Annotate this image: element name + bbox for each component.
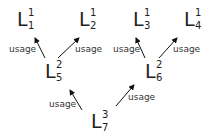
node-subscript: 7: [102, 123, 108, 133]
node-L41: L 1 4: [184, 10, 195, 29]
node-base: L: [184, 8, 195, 30]
node-L73: L 3 7: [91, 112, 102, 131]
node-subscript: 6: [156, 73, 162, 83]
node-superscript: 1: [195, 8, 201, 18]
node-L52: L 2 5: [45, 62, 56, 81]
node-L31: L 1 3: [133, 10, 144, 29]
node-superscript: 2: [56, 60, 62, 70]
edge-label-L52-L21: usage: [75, 44, 102, 54]
node-base: L: [145, 60, 156, 82]
node-superscript: 1: [28, 8, 34, 18]
node-subscript: 2: [90, 21, 96, 31]
node-base: L: [45, 60, 56, 82]
node-subscript: 1: [28, 21, 34, 31]
node-superscript: 1: [144, 8, 150, 18]
edge-label-L73-L62: usage: [128, 92, 155, 102]
edge-L52-L11: [35, 38, 45, 58]
node-superscript: 1: [90, 8, 96, 18]
edge-label-L62-L41: usage: [173, 44, 200, 54]
node-subscript: 5: [56, 73, 62, 83]
node-subscript: 3: [144, 21, 150, 31]
node-subscript: 4: [195, 21, 201, 31]
edge-label-L52-L11: usage: [9, 44, 36, 54]
node-base: L: [91, 110, 102, 132]
node-base: L: [133, 8, 144, 30]
node-superscript: 3: [102, 110, 108, 120]
node-base: L: [17, 8, 28, 30]
node-superscript: 2: [156, 60, 162, 70]
node-L11: L 1 1: [17, 10, 28, 29]
node-L62: L 2 6: [145, 62, 156, 81]
edge-label-L73-L52: usage: [49, 99, 76, 109]
node-L21: L 1 2: [79, 10, 90, 29]
edge-label-L62-L31: usage: [113, 44, 140, 54]
node-base: L: [79, 8, 90, 30]
